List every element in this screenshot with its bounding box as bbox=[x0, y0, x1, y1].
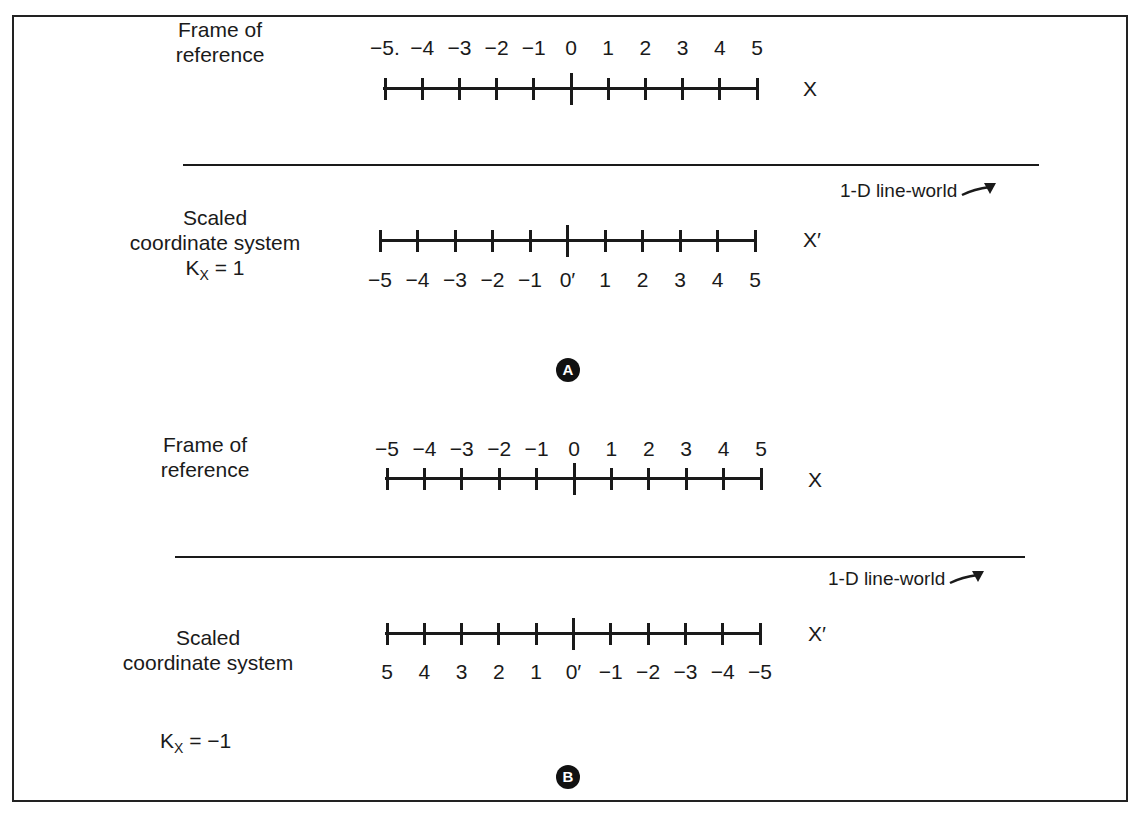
tick-label: 5 bbox=[755, 437, 767, 461]
tick-mark bbox=[386, 623, 389, 645]
tick-label: 3 bbox=[456, 660, 468, 684]
panel-a-scaled-label: Scaled coordinate system KX = 1 bbox=[95, 205, 335, 288]
panel-a-badge: A bbox=[556, 358, 580, 382]
label-line: reference bbox=[150, 42, 290, 67]
tick-label: 0 bbox=[565, 36, 577, 60]
panel-b-k-factor: KX = −1 bbox=[160, 728, 231, 761]
tick-mark bbox=[384, 78, 387, 100]
tick-label: 5 bbox=[381, 660, 393, 684]
tick-label: 4 bbox=[418, 660, 430, 684]
tick-label: 1 bbox=[602, 36, 614, 60]
tick-label: 3 bbox=[677, 36, 689, 60]
k-value: = 1 bbox=[209, 256, 245, 279]
tick-label: 0′ bbox=[560, 268, 576, 292]
arrow-icon bbox=[960, 181, 1000, 203]
panel-a-frame-label: Frame of reference bbox=[150, 17, 290, 67]
tick-label: −2 bbox=[485, 36, 509, 60]
label-line: coordinate system bbox=[95, 230, 335, 255]
tick-mark bbox=[760, 468, 763, 490]
tick-mark bbox=[721, 623, 724, 645]
tick-label: −2 bbox=[636, 660, 660, 684]
panel-b-frame-label: Frame of reference bbox=[135, 432, 275, 482]
tick-mark bbox=[647, 468, 650, 490]
k-value: = −1 bbox=[183, 729, 231, 752]
label-line: Frame of bbox=[135, 432, 275, 457]
tick-mark bbox=[685, 468, 688, 490]
tick-label: 2 bbox=[637, 268, 649, 292]
tick-mark bbox=[423, 468, 426, 490]
tick-label: 1 bbox=[599, 268, 611, 292]
tick-label: −3 bbox=[447, 36, 471, 60]
panel-b-badge: B bbox=[556, 765, 580, 789]
k-symbol: K bbox=[186, 256, 200, 279]
tick-label: −5 bbox=[748, 660, 772, 684]
tick-mark bbox=[497, 623, 500, 645]
panel-a-frame-axis-name: X bbox=[803, 77, 817, 101]
tick-label: 3 bbox=[680, 437, 692, 461]
tick-mark bbox=[722, 468, 725, 490]
tick-label: −2 bbox=[487, 437, 511, 461]
tick-mark bbox=[759, 623, 762, 645]
tick-mark bbox=[416, 230, 419, 252]
tick-label: −2 bbox=[481, 268, 505, 292]
tick-mark bbox=[386, 468, 389, 490]
tick-label: 3 bbox=[674, 268, 686, 292]
tick-label: 0 bbox=[568, 437, 580, 461]
tick-mark bbox=[573, 463, 576, 495]
k-subscript: X bbox=[200, 267, 209, 283]
tick-mark bbox=[572, 618, 575, 650]
tick-label: −5 bbox=[368, 268, 392, 292]
tick-mark bbox=[458, 78, 461, 100]
tick-label: 1 bbox=[530, 660, 542, 684]
tick-mark bbox=[607, 78, 610, 100]
tick-label: 5 bbox=[751, 36, 763, 60]
tick-mark bbox=[716, 230, 719, 252]
tick-label: −1 bbox=[522, 36, 546, 60]
tick-mark bbox=[604, 230, 607, 252]
k-subscript: X bbox=[174, 740, 183, 756]
tick-mark bbox=[535, 623, 538, 645]
tick-mark bbox=[491, 230, 494, 252]
arrow-icon bbox=[948, 569, 988, 591]
panel-b-scaled-label: Scaled coordinate system bbox=[108, 625, 308, 675]
tick-label: −1 bbox=[599, 660, 623, 684]
tick-mark bbox=[641, 230, 644, 252]
panel-a-line-world bbox=[183, 164, 1039, 166]
tick-label: −5. bbox=[370, 36, 400, 60]
label-line: coordinate system bbox=[108, 650, 308, 675]
label-line: reference bbox=[135, 457, 275, 482]
panel-b-line-world-label: 1-D line-world bbox=[828, 568, 988, 591]
panel-a-line-world-label: 1-D line-world bbox=[840, 180, 1000, 203]
tick-mark bbox=[421, 78, 424, 100]
tick-mark bbox=[681, 78, 684, 100]
tick-label: 4 bbox=[714, 36, 726, 60]
tick-mark bbox=[529, 230, 532, 252]
tick-label: −5 bbox=[375, 437, 399, 461]
tick-mark bbox=[644, 78, 647, 100]
tick-label: −4 bbox=[412, 437, 436, 461]
tick-mark bbox=[718, 78, 721, 100]
tick-label: 0′ bbox=[566, 660, 582, 684]
world-label-text: 1-D line-world bbox=[840, 180, 957, 201]
tick-mark bbox=[566, 225, 569, 257]
tick-label: 2 bbox=[643, 437, 655, 461]
tick-mark bbox=[460, 623, 463, 645]
label-line: Frame of bbox=[150, 17, 290, 42]
panel-b-line-world bbox=[175, 556, 1025, 558]
tick-mark bbox=[684, 623, 687, 645]
tick-mark bbox=[498, 468, 501, 490]
k-symbol: K bbox=[160, 729, 174, 752]
panel-b-frame-axis-name: X bbox=[808, 468, 822, 492]
tick-label: 4 bbox=[712, 268, 724, 292]
tick-mark bbox=[610, 468, 613, 490]
tick-mark bbox=[756, 78, 759, 100]
tick-mark bbox=[679, 230, 682, 252]
tick-label: 2 bbox=[493, 660, 505, 684]
tick-mark bbox=[379, 230, 382, 252]
tick-label: 4 bbox=[718, 437, 730, 461]
tick-mark bbox=[647, 623, 650, 645]
world-label-text: 1-D line-world bbox=[828, 568, 945, 589]
tick-label: 2 bbox=[640, 36, 652, 60]
panel-a-scaled-axis-name: X′ bbox=[803, 228, 821, 252]
label-line: Scaled bbox=[108, 625, 308, 650]
